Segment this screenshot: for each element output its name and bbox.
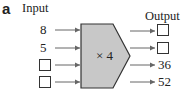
machine-operation: × 4 bbox=[96, 49, 113, 63]
input-value-2: 5 bbox=[40, 41, 47, 55]
output-blank-box-1[interactable] bbox=[157, 24, 169, 36]
output-blank-box-2[interactable] bbox=[157, 42, 169, 54]
input-blank-box-3[interactable] bbox=[39, 59, 51, 71]
output-value-3: 36 bbox=[158, 58, 171, 72]
input-value-1: 8 bbox=[40, 23, 47, 37]
input-blank-box-4[interactable] bbox=[39, 76, 51, 88]
output-value-4: 52 bbox=[158, 75, 171, 89]
